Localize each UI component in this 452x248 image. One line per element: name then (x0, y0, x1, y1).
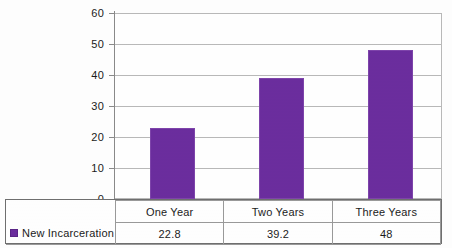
y-axis-label-50: 50 (64, 39, 104, 50)
y-axis-label-10: 10 (64, 163, 104, 174)
legend-series-label: New Incarceration (22, 228, 114, 239)
y-axis-label-20: 20 (64, 132, 104, 143)
gridline-60 (115, 13, 442, 14)
y-tick-50 (109, 44, 115, 45)
y-axis-label-30: 30 (64, 101, 104, 112)
column-header-three-years: Three Years (332, 201, 440, 223)
bar-chart: 60 50 40 30 20 10 0 (0, 0, 452, 200)
bar-one-year (150, 128, 195, 199)
legend-color-swatch-icon (10, 229, 18, 237)
value-cell-two-years: 39.2 (224, 223, 332, 245)
table-row-headers: One Year Two Years Three Years (6, 201, 441, 223)
table-row-values: New Incarceration 22.8 39.2 48 (6, 223, 441, 245)
y-tick-10 (109, 168, 115, 169)
legend-entry-new-incarceration: New Incarceration (6, 223, 116, 245)
legend-spacer-cell (6, 201, 116, 223)
y-tick-30 (109, 106, 115, 107)
y-tick-40 (109, 75, 115, 76)
bar-three-years (368, 50, 413, 199)
value-cell-three-years: 48 (332, 223, 440, 245)
column-header-two-years: Two Years (224, 201, 332, 223)
y-axis-label-60: 60 (64, 8, 104, 19)
bar-two-years (259, 78, 304, 199)
y-tick-20 (109, 137, 115, 138)
chart-data-table: One Year Two Years Three Years New Incar… (5, 199, 442, 244)
value-cell-one-year: 22.8 (116, 223, 224, 245)
column-header-one-year: One Year (116, 201, 224, 223)
y-axis-label-40: 40 (64, 70, 104, 81)
chart-screenshot: 60 50 40 30 20 10 0 One Year Two Years T… (0, 0, 452, 248)
gridline-50 (115, 44, 442, 45)
y-tick-60 (109, 13, 115, 14)
